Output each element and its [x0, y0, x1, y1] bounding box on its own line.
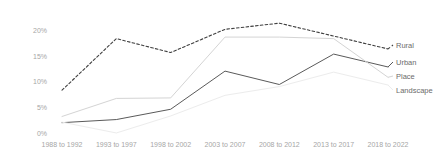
legend-leader-place	[388, 76, 393, 77]
series-line-rural	[62, 23, 388, 90]
series-line-landscape	[62, 72, 388, 133]
legend-leader-landscape	[388, 85, 393, 90]
legend-leader-rural	[388, 45, 393, 49]
series-line-place	[62, 37, 388, 116]
series-line-urban	[62, 54, 388, 123]
legend-leader-urban	[388, 62, 393, 67]
line-chart: 0%5%10%15%20% 1988 to 19921993 to 199719…	[0, 0, 445, 162]
plot-area	[0, 0, 445, 162]
